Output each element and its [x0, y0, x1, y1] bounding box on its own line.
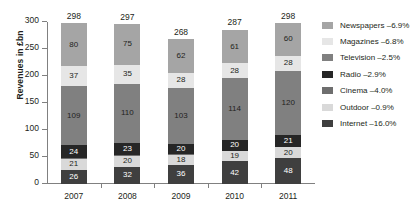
bar-segment-magazines[interactable]: 28 — [275, 56, 301, 71]
legend-item-outdoor[interactable]: Outdoor –0.9% — [322, 99, 409, 115]
bar-segment-value-label: 28 — [230, 67, 239, 75]
bar-segment-value-label: 24 — [69, 148, 78, 156]
bar-group[interactable]: 32202311035752972008 — [114, 22, 140, 184]
legend-item-cinema[interactable]: Cinema –4.0% — [322, 83, 409, 99]
bar-segment-newspapers[interactable]: 62 — [168, 39, 194, 72]
bar-total-label: 298 — [275, 11, 301, 21]
bar-group[interactable]: 42192011428612872010 — [222, 22, 248, 184]
bar-segment-value-label: 21 — [284, 137, 293, 145]
legend-swatch-icon — [322, 87, 333, 94]
bar-segment-value-label: 62 — [177, 52, 186, 60]
y-axis-title: Revenues in £bn — [15, 15, 25, 115]
bar-group[interactable]: 26212410937802982007 — [61, 22, 87, 184]
bar-segment-radio[interactable]: 20 — [168, 144, 194, 155]
stacked-bar[interactable]: 2621241093780 — [61, 23, 87, 184]
legend-swatch-icon — [322, 104, 333, 111]
bar-segment-value-label: 114 — [228, 105, 241, 113]
bar-segment-value-label: 20 — [177, 145, 186, 153]
legend-item-radio[interactable]: Radio –2.9% — [322, 66, 409, 82]
bar-segment-value-label: 75 — [123, 40, 132, 48]
bar-segment-outdoor[interactable]: 20 — [114, 156, 140, 167]
legend-item-label: Cinema –4.0% — [340, 86, 392, 95]
bar-segment-value-label: 19 — [230, 152, 239, 160]
bar-segment-internet[interactable]: 48 — [275, 158, 301, 184]
bar-segment-television[interactable]: 103 — [168, 88, 194, 144]
bar-segment-internet[interactable]: 32 — [114, 167, 140, 184]
stacked-bar[interactable]: 3618201032862 — [168, 39, 194, 184]
bar-segment-value-label: 110 — [121, 109, 134, 117]
bar-segment-magazines[interactable]: 37 — [61, 66, 87, 86]
legend-swatch-icon — [322, 120, 333, 127]
x-axis-category-label: 2007 — [53, 191, 95, 201]
bar-group[interactable]: 48202112028602982011 — [275, 22, 301, 184]
bar-segment-newspapers[interactable]: 60 — [275, 23, 301, 55]
chart-legend: Newspapers –6.9%Magazines –6.8%Televisio… — [322, 17, 409, 132]
legend-item-television[interactable]: Television –2.5% — [322, 50, 409, 66]
bar-segment-television[interactable]: 109 — [61, 86, 87, 145]
bar-segment-television[interactable]: 110 — [114, 84, 140, 143]
bar-segment-value-label: 28 — [177, 76, 186, 84]
bar-group[interactable]: 36182010328622682009 — [168, 22, 194, 184]
bar-segment-internet[interactable]: 36 — [168, 165, 194, 184]
bar-segment-value-label: 60 — [284, 35, 293, 43]
bar-segment-internet[interactable]: 26 — [61, 170, 87, 184]
stacked-bar[interactable]: 3220231103575 — [114, 24, 140, 184]
y-axis-tick-label: 50 — [30, 150, 39, 160]
legend-item-magazines[interactable]: Magazines –6.8% — [322, 33, 409, 49]
bar-segment-newspapers[interactable]: 61 — [222, 30, 248, 63]
legend-item-newspapers[interactable]: Newspapers –6.9% — [322, 17, 409, 33]
bar-segment-value-label: 28 — [284, 59, 293, 67]
y-axis-tick: 200 — [42, 75, 47, 76]
y-axis-tick: 250 — [42, 48, 47, 49]
x-axis-category-label: 2011 — [267, 191, 309, 201]
bar-segment-value-label: 35 — [123, 70, 132, 78]
y-axis-tick-label: 200 — [25, 69, 39, 79]
bar-segment-outdoor[interactable]: 18 — [168, 155, 194, 165]
bar-segment-magazines[interactable]: 28 — [168, 73, 194, 88]
y-axis-tick: 50 — [42, 156, 47, 157]
y-axis-tick: 100 — [42, 129, 47, 130]
bar-segment-internet[interactable]: 42 — [222, 161, 248, 184]
bar-segment-outdoor[interactable]: 21 — [61, 159, 87, 170]
bar-segment-outdoor[interactable]: 20 — [275, 147, 301, 158]
bar-segment-value-label: 36 — [177, 170, 186, 178]
bar-segment-newspapers[interactable]: 80 — [61, 23, 87, 66]
stacked-bar-chart: Revenues in £bn 050100150200250300 26212… — [0, 0, 416, 217]
bar-segment-value-label: 20 — [123, 157, 132, 165]
stacked-bar[interactable]: 4219201142861 — [222, 29, 248, 184]
x-axis-tick — [101, 184, 102, 188]
legend-item-label: Magazines –6.8% — [340, 37, 404, 46]
bar-segment-value-label: 103 — [174, 112, 187, 120]
x-axis-category-label: 2008 — [106, 191, 148, 201]
legend-item-label: Outdoor –0.9% — [340, 103, 394, 112]
bar-segment-value-label: 48 — [284, 167, 293, 175]
legend-swatch-icon — [322, 38, 333, 45]
y-axis-line — [47, 22, 48, 184]
legend-item-internet[interactable]: Internet –16.0% — [322, 115, 409, 131]
stacked-bar[interactable]: 4820211202860 — [275, 23, 301, 184]
bar-segment-outdoor[interactable]: 19 — [222, 151, 248, 161]
bar-segment-radio[interactable]: 23 — [114, 143, 140, 155]
bar-total-label: 287 — [222, 17, 248, 27]
bar-segment-radio[interactable]: 20 — [222, 140, 248, 151]
bar-segment-magazines[interactable]: 28 — [222, 63, 248, 78]
bar-segment-television[interactable]: 120 — [275, 71, 301, 136]
bar-segment-radio[interactable]: 21 — [275, 135, 301, 146]
bar-total-label: 268 — [168, 27, 194, 37]
legend-item-label: Newspapers –6.9% — [340, 21, 409, 30]
legend-item-label: Internet –16.0% — [340, 119, 396, 128]
y-axis-tick: 300 — [42, 21, 47, 22]
y-axis-tick-label: 100 — [25, 123, 39, 133]
bar-segment-magazines[interactable]: 35 — [114, 65, 140, 84]
bar-segment-radio[interactable]: 24 — [61, 145, 87, 158]
bar-segment-value-label: 32 — [123, 171, 132, 179]
legend-swatch-icon — [322, 22, 333, 29]
legend-swatch-icon — [322, 71, 333, 78]
bar-segment-television[interactable]: 114 — [222, 78, 248, 140]
x-axis-category-label: 2009 — [160, 191, 202, 201]
bar-segment-value-label: 61 — [230, 43, 239, 51]
y-axis-tick-label: 0 — [34, 177, 39, 187]
x-axis-category-label: 2010 — [214, 191, 256, 201]
bar-segment-newspapers[interactable]: 75 — [114, 24, 140, 65]
legend-item-label: Radio –2.9% — [340, 70, 386, 79]
